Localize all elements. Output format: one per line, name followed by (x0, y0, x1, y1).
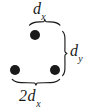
label-dy-symbol: d (70, 42, 78, 59)
bottom-left-point (10, 65, 20, 75)
right-brace (63, 31, 67, 75)
label-dx-subscript: x (41, 11, 45, 22)
label-dx-symbol: d (33, 0, 41, 17)
label-dy-subscript: y (78, 53, 82, 64)
label-2dx: 2dx (19, 88, 41, 107)
label-2dx-subscript: x (36, 98, 41, 109)
bottom-brace (12, 79, 59, 85)
label-dx: dx (33, 1, 45, 20)
label-dy: dy (70, 43, 82, 62)
label-2dx-coefficient: 2 (19, 87, 28, 104)
top-point (30, 30, 40, 40)
bottom-right-point (50, 65, 60, 75)
label-2dx-symbol: d (28, 87, 37, 104)
spacing-diagram-figure: dx dy 2dx (0, 0, 92, 109)
